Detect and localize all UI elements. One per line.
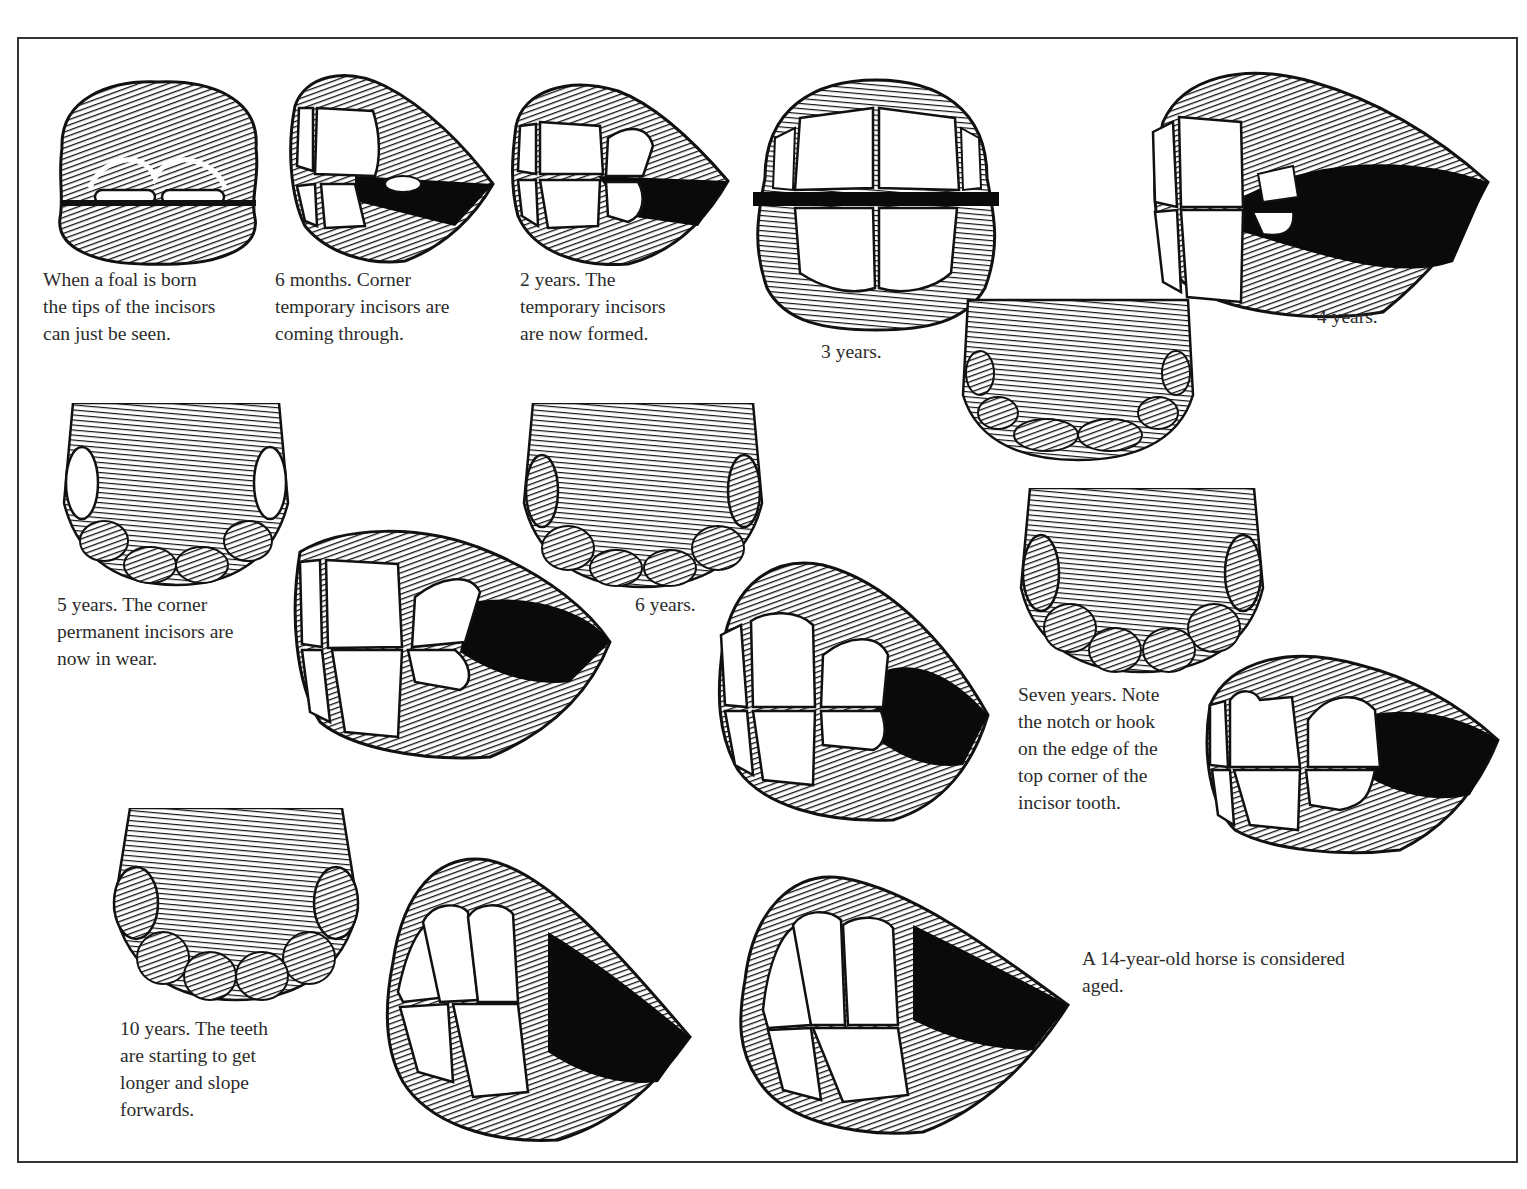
6-years-side-illustration: [713, 555, 993, 823]
7-years-side-illustration: [1200, 645, 1500, 857]
caption-6-years: 6 years.: [635, 591, 696, 618]
10-years-side-illustration: [378, 852, 692, 1144]
caption-3-years: 3 years.: [821, 338, 882, 365]
14-years-side-illustration: [733, 870, 1071, 1138]
caption-4-years: 4 years.: [1317, 303, 1378, 330]
caption-2-years: 2 years. The temporary incisors are now …: [520, 266, 666, 347]
2-years-mouth-illustration: [508, 76, 730, 266]
caption-6-months: 6 months. Corner temporary incisors are …: [275, 266, 449, 347]
caption-14-years: A 14-year-old horse is considered aged.: [1082, 945, 1345, 999]
caption-7-years: Seven years. Note the notch or hook on t…: [1018, 681, 1159, 816]
caption-10-years: 10 years. The teeth are starting to get …: [120, 1015, 268, 1123]
5-years-table-illustration: [58, 403, 294, 589]
3-years-mouth-illustration: [745, 78, 1007, 332]
caption-5-years: 5 years. The corner permanent incisors a…: [57, 591, 234, 672]
6-months-mouth-illustration: [285, 66, 495, 266]
foal-mouth-illustration: [50, 78, 266, 268]
4-years-side-illustration: [1143, 62, 1491, 324]
caption-foal: When a foal is born the tips of the inci…: [43, 266, 215, 347]
10-years-table-illustration: [108, 808, 364, 1002]
